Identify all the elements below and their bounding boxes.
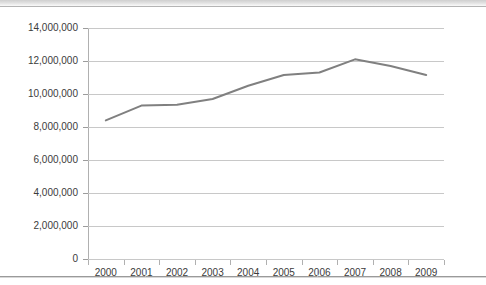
y-axis-tick-label: 14,000,000 bbox=[0, 23, 78, 33]
y-axis-tick-label: 8,000,000 bbox=[0, 122, 78, 132]
y-axis-tick-label: 10,000,000 bbox=[0, 89, 78, 99]
plot-area bbox=[88, 28, 444, 259]
footer-tick-1 bbox=[145, 270, 146, 277]
x-axis-tick-mark bbox=[373, 260, 374, 265]
series-line-1 bbox=[106, 59, 426, 120]
x-axis-tick-mark bbox=[302, 260, 303, 265]
x-axis-tick-mark bbox=[124, 260, 125, 265]
y-axis-tick-label: 0 bbox=[0, 254, 78, 264]
x-axis-tick-mark bbox=[444, 260, 445, 265]
y-axis-tick-label: 2,000,000 bbox=[0, 221, 78, 231]
x-axis-tick-mark bbox=[159, 260, 160, 265]
x-axis-tick-mark bbox=[408, 260, 409, 265]
x-axis-tick-mark bbox=[88, 260, 89, 265]
header-divider bbox=[0, 6, 486, 7]
x-axis-tick-mark bbox=[195, 260, 196, 265]
y-axis-tick-label: 6,000,000 bbox=[0, 155, 78, 165]
series-line-group bbox=[88, 28, 444, 259]
footer-divider-shadow bbox=[0, 277, 486, 278]
x-axis-tick-mark bbox=[230, 260, 231, 265]
y-axis-tick-label: 4,000,000 bbox=[0, 188, 78, 198]
x-axis-tick-mark bbox=[266, 260, 267, 265]
footer-tick-2 bbox=[317, 270, 318, 277]
x-axis-tick-mark bbox=[337, 260, 338, 265]
y-axis-tick-label: 12,000,000 bbox=[0, 56, 78, 66]
line-chart: 02,000,0004,000,0006,000,0008,000,00010,… bbox=[0, 8, 486, 270]
